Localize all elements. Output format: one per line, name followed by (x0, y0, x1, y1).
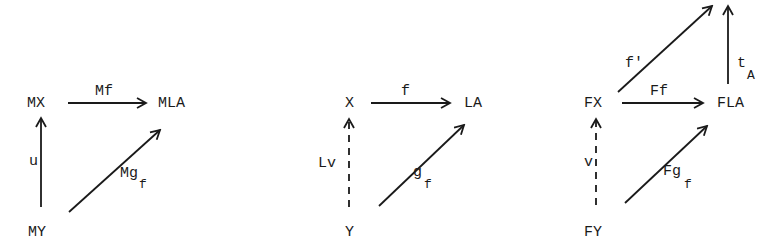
label-t-subscript: A (747, 68, 755, 83)
label-u: u (29, 153, 38, 170)
label-mg: Mg (120, 165, 138, 182)
object-fla: FLA (717, 95, 744, 112)
object-my: MY (28, 224, 46, 241)
label-t: t (737, 55, 746, 72)
label-v: v (584, 154, 593, 171)
object-y: Y (345, 224, 354, 241)
arrow-f-prime (618, 6, 712, 92)
label-mf: Mf (95, 83, 113, 100)
label-f: f (401, 83, 410, 100)
object-mla: MLA (158, 95, 185, 112)
label-lv: Lv (318, 155, 336, 172)
commutative-diagrams-figure: MX MLA MY Mf u Mg f X LA Y f Lv g f FX F… (0, 0, 784, 248)
label-fg: Fg (663, 163, 681, 180)
object-mx: MX (27, 95, 45, 112)
diagram-base: X LA Y f Lv g f (318, 83, 482, 241)
label-fg-subscript: f (684, 177, 692, 192)
label-g: g (413, 164, 422, 181)
arrow-mg-f (69, 130, 160, 212)
diagram-f: FX FLA FY Ff v Fg f f' t A (584, 6, 755, 241)
object-x: X (345, 95, 354, 112)
label-mg-subscript: f (139, 177, 147, 192)
diagram-m: MX MLA MY Mf u Mg f (27, 83, 185, 241)
label-f-prime: f' (625, 55, 643, 72)
label-ff: Ff (650, 83, 668, 100)
label-g-subscript: f (424, 177, 432, 192)
object-fx: FX (584, 95, 602, 112)
object-la: LA (464, 95, 482, 112)
object-fy: FY (584, 224, 602, 241)
